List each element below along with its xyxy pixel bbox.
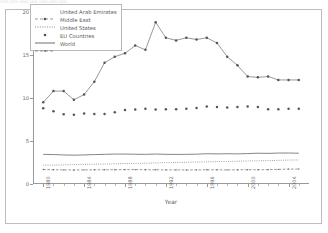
data-point [93,80,96,83]
series-middle-east [43,160,299,165]
data-point [83,112,86,115]
data-point [154,108,157,111]
data-point [267,75,270,78]
legend-item[interactable]: EU Countries [34,32,117,40]
y-axis-tick-mark [30,55,33,56]
y-axis-tick-label: 0 [26,181,29,187]
data-point [134,108,137,111]
y-axis-tick-mark [30,141,33,142]
data-point [185,37,188,40]
x-axis-minor-tick [156,184,157,186]
data-point [175,108,178,111]
x-axis-tick-mark [125,184,126,187]
data-point [206,105,209,108]
x-axis-tick-label: 1996 [209,176,215,189]
data-point [154,21,157,24]
series-line [43,153,299,155]
x-axis-minor-tick [278,184,279,186]
legend-swatch-icon [34,32,56,40]
x-axis-title: Year [33,199,309,205]
data-point [267,169,268,170]
x-axis-minor-tick [176,184,177,186]
series-line [43,169,299,170]
data-point [196,169,197,170]
x-axis-minor-tick [53,184,54,186]
x-axis-minor-tick [115,184,116,186]
data-point [83,93,86,96]
data-point [43,169,44,170]
data-point [73,98,76,101]
legend-item-label: EU Countries [60,33,94,39]
data-point [93,113,96,116]
x-axis-minor-tick [197,184,198,186]
series-united-states [42,105,300,116]
legend-item[interactable]: United States [34,24,117,32]
legend-item-label: Middle East [60,17,91,23]
data-point [144,108,147,111]
x-axis-minor-tick [217,184,218,186]
data-point [124,169,125,170]
legend-item[interactable]: World [34,40,117,48]
x-axis-tick-label: 1980 [45,176,51,189]
y-axis-tick-label: 5 [26,138,29,144]
data-point [144,49,147,52]
legend-swatch-icon [34,8,56,16]
data-point [83,169,84,170]
data-point [288,168,289,169]
data-point [195,107,198,110]
legend-item-label: United Arab Emirates [60,9,117,15]
data-point [114,169,115,170]
data-point [226,106,229,109]
y-axis-tick-label: 10 [22,95,29,101]
data-point [298,108,301,111]
data-point [114,111,117,114]
x-axis-minor-tick [268,184,269,186]
legend-item[interactable]: Middle East [34,16,117,24]
x-axis-minor-tick [258,184,259,186]
x-axis-tick-label: 1984 [86,176,92,189]
data-point [42,101,45,104]
data-point [226,55,229,58]
data-point [175,169,176,170]
data-point [236,106,239,109]
legend-item-label: United States [60,25,96,31]
legend-swatch-icon [34,16,56,24]
data-point [186,169,187,170]
x-axis-minor-tick [227,184,228,186]
x-axis-tick-mark [84,184,85,187]
data-point [52,110,55,113]
data-point [135,169,136,170]
data-point [246,105,249,108]
series-world [43,168,300,170]
data-point [216,42,219,45]
legend-item[interactable]: United Arab Emirates [34,8,117,16]
x-axis-tick-label: 1992 [168,176,174,189]
data-point [73,114,76,117]
y-axis-tick-mark [30,98,33,99]
series-eu-countries [43,153,299,155]
y-axis-tick-label: 20 [22,9,29,15]
y-axis-tick-label: 15 [22,52,29,58]
data-point [124,109,127,112]
x-axis-tick-label: 1988 [127,176,133,189]
legend-swatch-icon [34,24,56,32]
data-point [165,169,166,170]
x-axis-minor-tick [299,184,300,186]
x-axis-tick-mark [248,184,249,187]
data-point [155,169,156,170]
data-point [185,108,188,111]
x-axis-minor-tick [94,184,95,186]
data-point [53,169,54,170]
data-point [278,169,279,170]
data-point [287,108,290,111]
data-point [247,169,248,170]
series-line [43,160,299,165]
data-point [104,169,105,170]
data-point [94,169,95,170]
x-axis-minor-tick [135,184,136,186]
data-point [73,169,74,170]
x-axis-tick-label: 2004 [291,176,297,189]
data-point [287,79,290,82]
x-axis-minor-tick [145,184,146,186]
y-axis-tick-mark [30,184,33,185]
